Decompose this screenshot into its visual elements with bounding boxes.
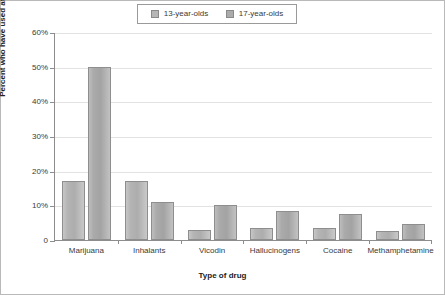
bar-group: Marijuana: [55, 33, 118, 240]
legend-label: 17-year-olds: [239, 10, 283, 18]
bar-group: Cocaine: [306, 33, 369, 240]
x-axis-tick: [431, 240, 432, 244]
x-axis-tick-label: Marijuana: [69, 247, 104, 255]
bar[interactable]: [62, 181, 85, 240]
bar[interactable]: [214, 205, 237, 240]
y-axis-tick-label: 50%: [32, 64, 48, 72]
bar-group: Methamphetamine: [369, 33, 432, 240]
bar[interactable]: [88, 67, 111, 240]
x-axis-tick: [306, 240, 307, 244]
x-axis-tick-label: Methamphetamine: [367, 247, 433, 255]
x-axis-tick: [181, 240, 182, 244]
bar[interactable]: [376, 231, 399, 240]
x-axis-tick: [118, 240, 119, 244]
x-axis-tick-label: Inhalants: [133, 247, 165, 255]
y-axis-tick-label: 60%: [32, 29, 48, 37]
legend-item-13-year-olds[interactable]: 13-year-olds: [151, 10, 208, 18]
bar-group: Vicodin: [181, 33, 244, 240]
bar[interactable]: [276, 211, 299, 240]
bar-group: Inhalants: [118, 33, 181, 240]
bar[interactable]: [188, 230, 211, 240]
y-axis-tick-label: 40%: [32, 98, 48, 106]
bar[interactable]: [313, 228, 336, 240]
y-axis-tick: [50, 241, 55, 242]
legend-item-17-year-olds[interactable]: 17-year-olds: [226, 10, 283, 18]
bar[interactable]: [151, 202, 174, 240]
y-axis-tick-label: 10%: [32, 202, 48, 210]
y-axis-tick-label: 20%: [32, 168, 48, 176]
x-axis-tick-label: Cocaine: [323, 247, 352, 255]
legend-label: 13-year-olds: [164, 10, 208, 18]
bar[interactable]: [402, 224, 425, 240]
y-axis-tick-label: 0: [44, 237, 48, 245]
x-axis-tick: [369, 240, 370, 244]
x-axis-tick: [243, 240, 244, 244]
y-axis-tick-label: 30%: [32, 133, 48, 141]
chart-legend: 13-year-olds 17-year-olds: [137, 4, 297, 24]
plot-area: 010%20%30%40%50%60% MarijuanaInhalantsVi…: [54, 33, 432, 241]
x-axis-title: Type of drug: [0, 272, 445, 280]
x-axis-tick-label: Vicodin: [199, 247, 225, 255]
bar[interactable]: [125, 181, 148, 240]
bar[interactable]: [250, 228, 273, 240]
y-axis-title: Percent who have used at least once: [0, 0, 7, 137]
legend-swatch-icon: [226, 10, 234, 18]
x-axis-tick-label: Hallucinogens: [250, 247, 300, 255]
bar-group: Hallucinogens: [243, 33, 306, 240]
legend-swatch-icon: [151, 10, 159, 18]
bar-groups: MarijuanaInhalantsVicodinHallucinogensCo…: [55, 33, 432, 240]
bar[interactable]: [339, 214, 362, 240]
